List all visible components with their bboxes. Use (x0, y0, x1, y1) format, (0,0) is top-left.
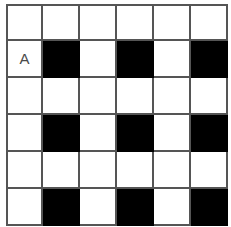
grid-cell-empty[interactable] (154, 78, 191, 115)
grid-cell-empty[interactable] (117, 152, 154, 189)
grid-cell-empty[interactable] (117, 78, 154, 115)
grid-cell-empty[interactable] (6, 152, 43, 189)
grid-cell-empty[interactable] (80, 115, 117, 152)
grid-canvas: A (0, 0, 231, 227)
grid-cell-filled[interactable] (191, 41, 228, 78)
grid-cell-filled[interactable] (191, 115, 228, 152)
grid-cell-empty[interactable] (80, 78, 117, 115)
grid-cell-empty[interactable] (6, 4, 43, 41)
grid-cell-empty[interactable] (43, 152, 80, 189)
grid-cell-empty[interactable] (80, 189, 117, 226)
grid-cell-empty[interactable] (154, 41, 191, 78)
grid-cell-empty[interactable] (80, 4, 117, 41)
grid-cell-empty[interactable] (6, 78, 43, 115)
grid-cell-filled[interactable] (43, 115, 80, 152)
grid-cell-empty[interactable] (43, 78, 80, 115)
grid-cell-empty[interactable] (80, 41, 117, 78)
grid-cell-empty[interactable]: A (6, 41, 43, 78)
grid-cell-filled[interactable] (191, 189, 228, 226)
checkerboard-grid: A (6, 4, 228, 226)
grid-cell-empty[interactable] (117, 4, 154, 41)
grid-cell-empty[interactable] (154, 4, 191, 41)
grid-cell-filled[interactable] (117, 41, 154, 78)
cell-label: A (19, 51, 29, 66)
grid-cell-empty[interactable] (80, 152, 117, 189)
grid-cell-empty[interactable] (43, 4, 80, 41)
grid-cell-filled[interactable] (117, 115, 154, 152)
grid-cell-filled[interactable] (117, 189, 154, 226)
grid-cell-empty[interactable] (191, 78, 228, 115)
grid-cell-filled[interactable] (43, 189, 80, 226)
grid-cell-empty[interactable] (154, 189, 191, 226)
grid-cell-empty[interactable] (191, 152, 228, 189)
grid-cell-empty[interactable] (154, 152, 191, 189)
grid-cell-empty[interactable] (154, 115, 191, 152)
grid-cell-empty[interactable] (6, 189, 43, 226)
grid-cell-empty[interactable] (6, 115, 43, 152)
grid-cell-filled[interactable] (43, 41, 80, 78)
grid-cell-empty[interactable] (191, 4, 228, 41)
